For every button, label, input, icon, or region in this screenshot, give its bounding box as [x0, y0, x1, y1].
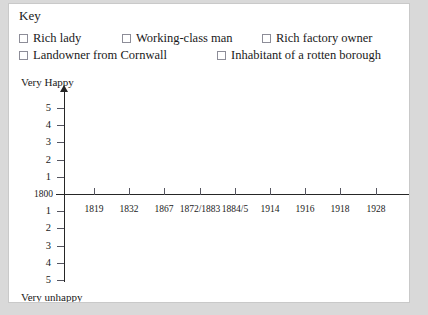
- x-axis-tick: [270, 188, 271, 195]
- y-axis-tick: [57, 160, 64, 161]
- y-axis-tick-label: 5: [25, 275, 51, 285]
- y-axis-tick-label: 1: [25, 206, 51, 216]
- y-axis-tick-label: 4: [25, 258, 51, 268]
- y-axis-tick-label: 4: [25, 120, 51, 130]
- y-axis-tick: [57, 280, 64, 281]
- worksheet-page: Key Rich ladyWorking-class manRich facto…: [8, 3, 410, 303]
- y-axis-tick-label: 1: [25, 172, 51, 182]
- x-axis-tick: [200, 188, 201, 195]
- y-axis-tick-label: 2: [25, 155, 51, 165]
- x-axis-tick-label: 1884/5: [222, 204, 248, 215]
- x-axis-tick-label: 1832: [120, 204, 139, 215]
- y-axis-tick: [57, 177, 64, 178]
- y-axis-tick: [57, 263, 64, 264]
- x-axis-tick-label: 1928: [367, 204, 386, 215]
- y-axis-tick-label: 5: [25, 103, 51, 113]
- x-axis-line: [56, 194, 410, 195]
- y-axis-origin-label: 1800: [23, 189, 53, 199]
- y-axis-tick: [57, 108, 64, 109]
- x-axis-tick-label: 1918: [331, 204, 350, 215]
- y-axis-tick: [57, 142, 64, 143]
- y-axis-line: [64, 91, 65, 282]
- x-axis-tick-label: 1867: [155, 204, 174, 215]
- x-axis-tick-label: 1914: [261, 204, 280, 215]
- y-axis-tick: [57, 211, 64, 212]
- x-axis-tick-label: 1916: [296, 204, 315, 215]
- x-axis-tick: [129, 188, 130, 195]
- y-axis-tick: [57, 228, 64, 229]
- x-axis-tick: [235, 188, 236, 195]
- x-axis-tick: [305, 188, 306, 195]
- x-axis-tick-label: 1872/1883: [180, 204, 221, 215]
- y-axis-tick-label: 2: [25, 223, 51, 233]
- y-axis-arrow-icon: [60, 85, 68, 92]
- x-axis-tick: [376, 188, 377, 195]
- y-axis-tick-label: 3: [25, 241, 51, 251]
- y-axis-tick-label: 3: [25, 137, 51, 147]
- x-axis-tick: [164, 188, 165, 195]
- x-axis-tick: [340, 188, 341, 195]
- x-axis-tick: [94, 188, 95, 195]
- timeline-chart: 1800 54321123451819183218671872/18831884…: [9, 4, 410, 303]
- y-axis-tick: [57, 125, 64, 126]
- y-axis-tick: [57, 246, 64, 247]
- x-axis-tick-label: 1819: [85, 204, 104, 215]
